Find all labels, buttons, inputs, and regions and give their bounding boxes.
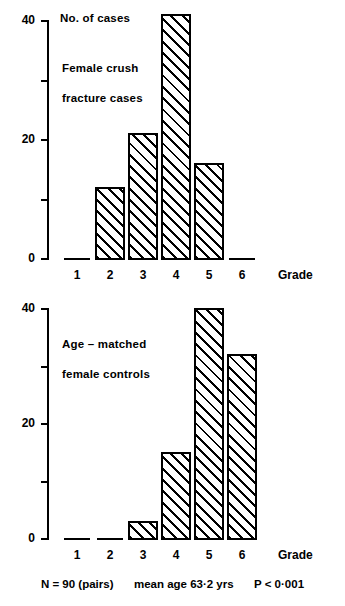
y-axis-tick-20 [41, 139, 48, 141]
x-axis-label-2: 2 [95, 268, 125, 282]
x-axis-label-1: 1 [62, 548, 92, 562]
chart-panel-bottom: 02040123456 Age – matched female control… [0, 290, 345, 570]
figure-root: 02040123456 No. of cases Female crush fr… [0, 0, 345, 606]
x-axis-title-top: Grade [278, 268, 313, 282]
y-axis-tick-30 [41, 366, 48, 368]
x-axis-label-1: 1 [62, 268, 92, 282]
x-axis-label-5: 5 [194, 268, 224, 282]
bar-grade-3 [128, 521, 158, 540]
bar-grade-5 [194, 163, 224, 260]
chart-annotation-bottom-line1: Age – matched [62, 338, 146, 350]
bar-grade-1-zero [64, 538, 90, 540]
caption-p-value: P < 0·001 [254, 578, 304, 590]
bar-grade-3 [128, 133, 158, 260]
figure-caption: N = 90 (pairs) mean age 63·2 yrs P < 0·0… [0, 578, 345, 590]
bar-grade-4 [161, 452, 191, 540]
y-axis-label-40: 40 [9, 13, 35, 27]
x-axis-label-4: 4 [161, 268, 191, 282]
x-axis-label-3: 3 [128, 548, 158, 562]
y-axis-label-20: 20 [9, 416, 35, 430]
y-axis-tick-40 [41, 308, 48, 310]
chart-title-top: No. of cases [60, 12, 130, 24]
y-axis-tick-10 [41, 481, 48, 483]
y-axis-tick-20 [41, 423, 48, 425]
chart-annotation-top-line2: fracture cases [62, 92, 143, 104]
y-axis-tick-40 [41, 20, 48, 22]
x-axis-label-2: 2 [95, 548, 125, 562]
bar-grade-1-zero [64, 258, 90, 260]
chart-annotation-bottom-line2: female controls [62, 368, 150, 380]
y-axis-tick-30 [41, 80, 48, 82]
y-axis-tick-0 [41, 258, 48, 260]
bar-grade-2 [95, 187, 125, 260]
x-axis-label-3: 3 [128, 268, 158, 282]
x-axis-title-bottom: Grade [278, 548, 313, 562]
bar-grade-6-zero [229, 258, 255, 260]
bar-grade-2-zero [97, 538, 123, 540]
x-axis-label-6: 6 [227, 548, 257, 562]
x-axis-label-6: 6 [227, 268, 257, 282]
y-axis-tick-0 [41, 538, 48, 540]
x-axis-label-4: 4 [161, 548, 191, 562]
y-axis-tick-10 [41, 199, 48, 201]
x-axis-label-5: 5 [194, 548, 224, 562]
y-axis-label-40: 40 [9, 301, 35, 315]
chart-annotation-top-line1: Female crush [62, 62, 139, 74]
chart-panel-top: 02040123456 No. of cases Female crush fr… [0, 0, 345, 290]
y-axis-label-20: 20 [9, 132, 35, 146]
caption-sample-size: N = 90 (pairs) [41, 578, 114, 590]
y-axis-label-0: 0 [9, 531, 35, 545]
caption-mean-age: mean age 63·2 yrs [134, 578, 234, 590]
bar-grade-4 [161, 14, 191, 260]
bar-grade-6 [227, 354, 257, 540]
bar-grade-5 [194, 308, 224, 540]
y-axis-label-0: 0 [9, 251, 35, 265]
